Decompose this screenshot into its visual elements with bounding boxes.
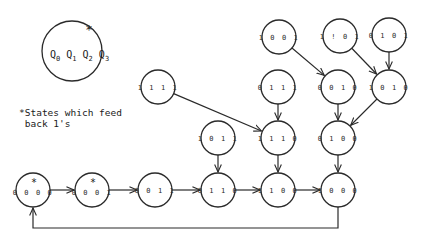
state-node-1111: 1 1 1 1 (138, 70, 179, 104)
state-label: 1 0 0 1 (259, 34, 300, 42)
edge-1001-to-0010 (292, 48, 324, 75)
state-label: 1 0 1 1 (198, 135, 239, 143)
footnote-line-1: *States which feed (19, 107, 122, 118)
footnote: *States which feed back 1's (19, 107, 122, 129)
state-label: 1 0 0 0 (318, 187, 359, 195)
state-label: 0 1 1 0 (198, 187, 239, 195)
edge-1!01-to-1010 (352, 48, 377, 74)
edge-1000-to-0000 (33, 207, 338, 228)
state-node-0011: 0 0 1 1 (135, 173, 176, 207)
state-label: 0 1 1 1 (258, 84, 299, 92)
state-node-0001: *0 0 0 1 (72, 173, 113, 207)
legend-circle: * Q0 Q1 Q2 Q3 (42, 21, 109, 81)
state-label: 1 0 1 0 (369, 84, 410, 92)
state-node-0111: 0 1 1 1 (258, 70, 299, 104)
state-label: 1 1 0 0 (258, 187, 299, 195)
feedback-star-icon: * (32, 177, 37, 188)
state-label: 0 1 0 1 (369, 32, 410, 40)
state-label: 0 0 0 0 (13, 189, 54, 197)
state-label: 1 1 1 0 (258, 135, 299, 143)
state-node-0110: 0 1 1 0 (198, 173, 239, 207)
state-node-1!01: 1 ! 0 1 (320, 19, 361, 53)
state-node-0100: 0 1 0 0 (318, 121, 359, 155)
state-node-1010: 1 0 1 0 (369, 70, 410, 104)
state-label: 1 ! 0 1 (320, 33, 361, 41)
state-label: 1 1 1 1 (138, 84, 179, 92)
footnote-line-2: back 1's (19, 118, 70, 129)
state-label: 0 1 0 0 (318, 135, 359, 143)
state-node-0101: 0 1 0 1 (369, 18, 410, 52)
state-node-0000: *0 0 0 0 (13, 173, 54, 207)
state-node-1011: 1 0 1 1 (198, 121, 239, 155)
state-node-1000: 1 0 0 0 (318, 173, 359, 207)
state-label: 0 0 0 1 (72, 189, 113, 197)
state-node-1110: 1 1 1 0 (258, 121, 299, 155)
feedback-star-icon: * (91, 177, 96, 188)
state-label: 0 0 1 1 (135, 187, 176, 195)
state-node-1100: 1 1 0 0 (258, 173, 299, 207)
state-label: 0 0 1 0 (318, 84, 359, 92)
legend-star: * (86, 23, 92, 37)
edge-1010-to-0100 (351, 99, 377, 125)
